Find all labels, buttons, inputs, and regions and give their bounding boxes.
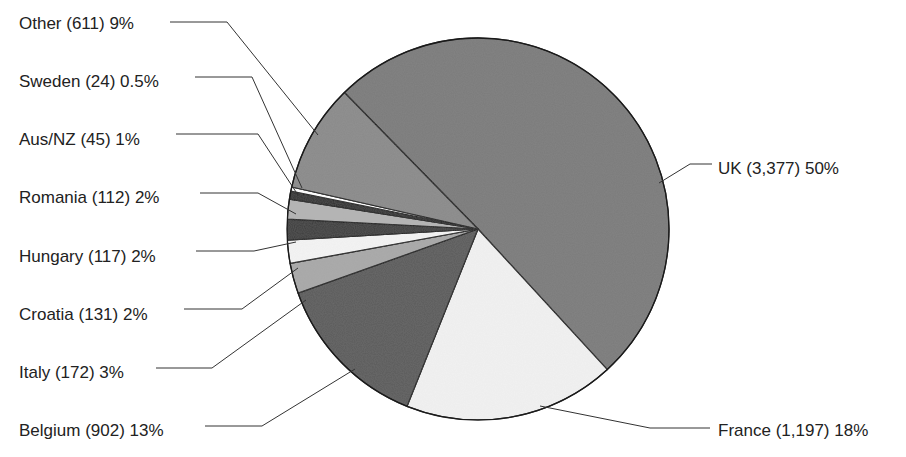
slice-label: Croatia (131) 2% xyxy=(19,305,148,324)
leader-line xyxy=(540,406,710,428)
leader-line xyxy=(659,164,712,183)
slice-label: Hungary (117) 2% xyxy=(19,247,156,266)
leader-line xyxy=(184,268,298,309)
leader-line xyxy=(176,134,298,195)
slice-label: Romania (112) 2% xyxy=(19,188,159,207)
pie-slices xyxy=(287,38,669,420)
slice-label: Other (611) 9% xyxy=(19,14,134,33)
leader-line xyxy=(170,22,318,135)
leader-line xyxy=(195,77,302,188)
leader-line xyxy=(200,193,296,214)
slice-label: Italy (172) 3% xyxy=(19,363,124,382)
pie-chart: UK (3,377) 50%France (1,197) 18%Belgium … xyxy=(0,0,906,457)
slice-label: UK (3,377) 50% xyxy=(718,159,839,178)
slice-label: France (1,197) 18% xyxy=(718,421,868,440)
slice-label: Aus/NZ (45) 1% xyxy=(19,130,140,149)
slice-label: Belgium (902) 13% xyxy=(19,421,164,440)
slice-label: Sweden (24) 0.5% xyxy=(19,72,159,91)
leader-line xyxy=(156,300,306,368)
leader-line xyxy=(196,242,296,251)
leader-line xyxy=(205,369,355,426)
